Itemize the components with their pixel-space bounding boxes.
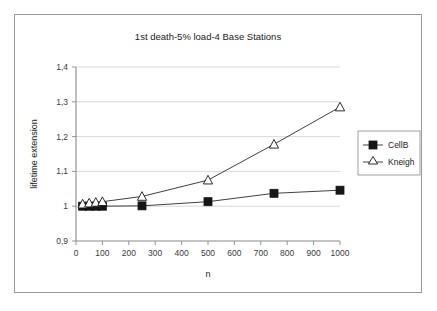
- data-point-cellb: [138, 202, 146, 210]
- y-tick-label: 1,3: [56, 97, 68, 107]
- chart-title: 1st death-5% load-4 Base Stations: [135, 31, 282, 42]
- x-tick-label: 600: [227, 248, 241, 258]
- series-layer: [78, 102, 345, 210]
- x-axis-title: n: [205, 269, 210, 279]
- x-tick-label: 100: [95, 248, 109, 258]
- x-tick-label: 800: [280, 248, 294, 258]
- chart-frame: 1st death-5% load-4 Base Stations 0,911,…: [14, 14, 422, 293]
- data-point-kneigh: [335, 102, 344, 111]
- x-axis-ticks: 01002003004005006007008009001000: [74, 241, 350, 258]
- x-tick-label: 1000: [331, 248, 350, 258]
- legend-label-cellb: CellB: [388, 140, 409, 150]
- x-tick-label: 0: [74, 248, 79, 258]
- y-axis-title: lifetime extension: [29, 119, 39, 189]
- y-tick-label: 1,4: [56, 62, 68, 72]
- y-tick-label: 1: [63, 201, 68, 211]
- data-point-cellb: [270, 189, 278, 197]
- y-tick-label: 1,2: [56, 132, 68, 142]
- x-tick-label: 400: [175, 248, 189, 258]
- x-tick-label: 500: [201, 248, 215, 258]
- x-tick-label: 200: [122, 248, 136, 258]
- legend-label-kneigh: Kneigh: [388, 157, 415, 167]
- chart-canvas: 1st death-5% load-4 Base Stations 0,911,…: [15, 15, 421, 292]
- gridlines: [76, 67, 340, 206]
- x-tick-label: 700: [254, 248, 268, 258]
- legend-marker-cellb: [369, 141, 377, 149]
- data-point-cellb: [204, 198, 212, 206]
- x-tick-label: 900: [307, 248, 321, 258]
- legend-box: [358, 131, 420, 175]
- data-point-kneigh: [203, 175, 212, 184]
- chart-legend: CellB Kneigh: [358, 131, 420, 175]
- series-line-kneigh: [83, 107, 340, 204]
- y-axis-ticks: 0,911,11,21,31,4: [56, 62, 76, 246]
- x-tick-label: 300: [148, 248, 162, 258]
- data-point-kneigh: [269, 139, 278, 148]
- data-point-cellb: [336, 186, 344, 194]
- y-tick-label: 0,9: [56, 236, 68, 246]
- y-tick-label: 1,1: [56, 166, 68, 176]
